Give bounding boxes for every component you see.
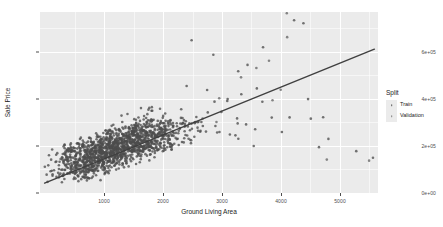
legend: Split Train Validation [386, 90, 442, 122]
trend-line-layer [40, 12, 378, 193]
y-tick-mark [36, 193, 39, 194]
x-tick-label: 5000 [334, 198, 346, 204]
y-tick-mark [36, 146, 39, 147]
x-tick-label: 2000 [157, 198, 169, 204]
legend-key-point-icon [386, 100, 397, 111]
legend-key-point-icon [386, 111, 397, 122]
legend-item-train[interactable]: Train [386, 100, 442, 111]
y-tick-mark [36, 52, 39, 53]
x-axis-title: Ground Living Area [40, 208, 378, 215]
x-tick-mark [163, 193, 164, 196]
x-tick-mark [222, 193, 223, 196]
y-axis-title-text: Sale Price [5, 88, 12, 118]
y-tick-label: 0e+00 [421, 190, 436, 196]
y-tick-mark [36, 99, 39, 100]
gridline-major-horizontal [40, 193, 378, 194]
chart-root: 6e+05 4e+05 2e+05 0e+00 Sale Price 1000 … [0, 0, 443, 227]
plot-panel [40, 12, 378, 193]
x-tick-mark [104, 193, 105, 196]
y-axis-title: Sale Price [3, 12, 13, 193]
x-tick-label: 4000 [275, 198, 287, 204]
x-tick-mark [340, 193, 341, 196]
y-tick-label: 6e+05 [421, 49, 436, 55]
legend-item-validation[interactable]: Validation [386, 111, 442, 122]
legend-title: Split [386, 90, 442, 97]
x-tick-mark [281, 193, 282, 196]
x-tick-label: 1000 [98, 198, 110, 204]
legend-label: Train [400, 102, 412, 108]
y-tick-label: 2e+05 [421, 143, 436, 149]
legend-label: Validation [400, 113, 424, 119]
x-tick-label: 3000 [216, 198, 228, 204]
